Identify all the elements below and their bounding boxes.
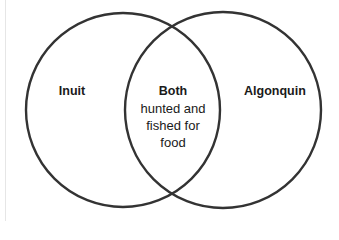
intersection-line: food [133,134,213,151]
intersection-title: Both [133,84,213,99]
intersection-line: hunted and [133,100,213,117]
inuit-label: Inuit [56,84,88,98]
intersection-line: fished for [133,117,213,134]
intersection-region: Both hunted and fished for food [133,84,213,151]
algonquin-label: Algonquin [244,84,304,98]
